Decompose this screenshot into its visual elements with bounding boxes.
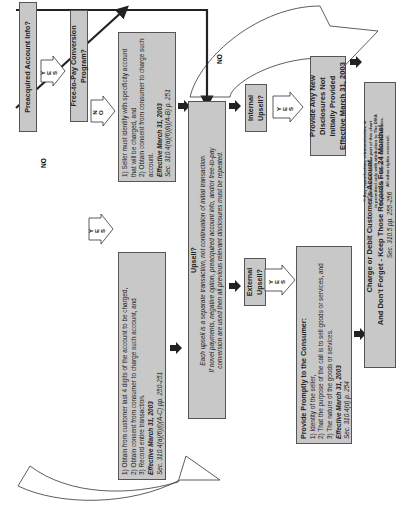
free-to-pay-node: Free-to-Pay Conversion Program? [70, 10, 88, 122]
yes-branch-box: 1) Obtain from customer last 4 digits of… [118, 252, 166, 480]
preacquired-label: Preacquired Account Info? [23, 21, 33, 113]
no-label-left: NO [40, 158, 47, 168]
no-label-right: NO [216, 54, 223, 64]
external-upsell-node: External Upsell? [244, 258, 266, 306]
arrow-to-external [229, 280, 241, 292]
arrow-to-internal [229, 100, 241, 112]
internal-upsell-node: Internal Upsell? [245, 84, 267, 132]
provide-promptly-box: Provide Promptly to the Consumer: 1) Ide… [296, 246, 352, 444]
copyright-line: All other rights reserved. [385, 106, 391, 216]
copyright-line: © Any reproduction, retransmission, or [362, 106, 368, 216]
no-branch-box: 1) Seller must identify with specificity… [118, 32, 176, 182]
copyright-notice: © Any reproduction, retransmission, orre… [362, 106, 391, 216]
arrow-to-upsell-right [170, 342, 182, 354]
yes-label-2: YES [88, 229, 106, 233]
preacquired-account-node: Preacquired Account Info? [19, 2, 37, 132]
yes-label-1: YES [40, 71, 58, 75]
yes-label-external: YES [268, 280, 286, 284]
new-disclosures-node: Provide Any New Disclosures Not Initiall… [310, 56, 346, 156]
yes-label-internal: YES [276, 107, 294, 111]
no-label-vertical: NO [92, 110, 104, 115]
curved-no-arrow-right [190, 6, 378, 97]
arrow-to-charge-left [350, 56, 362, 68]
free-to-pay-label: Free-to-Pay Conversion Program? [69, 15, 88, 117]
flowchart-canvas: Preacquired Account Info? YES Free-to-Pa… [0, 0, 408, 526]
upsell-node: Upsell? Each upsell is a separate transa… [188, 101, 226, 419]
